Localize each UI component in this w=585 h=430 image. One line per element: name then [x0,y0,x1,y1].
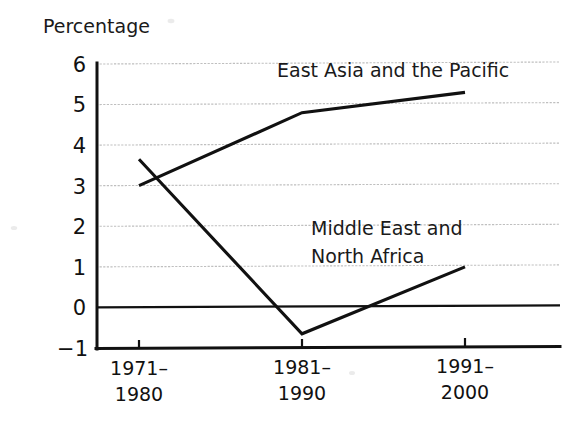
y-tick-2: 2 [73,215,86,239]
y-tick-5: 5 [73,93,86,117]
x-tick-2-line2: 1990 [278,382,326,404]
y-tick-4: 4 [73,134,86,158]
y-tick-1: 1 [73,256,86,280]
y-axis-tick-labels: 6 5 4 3 2 1 0 −1 [57,53,88,361]
y-tick-0: 0 [73,296,86,320]
x-tick-1-line1: 1971– [110,357,168,379]
series-label-middle-east-line2: North Africa [311,245,424,267]
x-tick-3-line1: 1991– [436,355,494,377]
zero-baseline [96,305,560,307]
x-tick-1-line2: 1980 [115,383,163,405]
gridline-5 [96,103,560,105]
x-axis-line [96,347,560,349]
y-tick-minus-1: −1 [57,337,88,361]
chart-container: Percentage 6 5 4 3 2 1 0 −1 [0,0,585,430]
scan-artifact [349,371,355,375]
y-tick-6: 6 [73,53,86,77]
series-label-middle-east-line1: Middle East and [311,217,463,239]
gridline-4 [96,143,560,145]
x-tick-3-line2: 2000 [441,381,489,403]
x-axis-tick-labels: 1971– 1980 1981– 1990 1991– 2000 [110,355,494,405]
y-tick-3: 3 [73,175,86,199]
y-axis-title: Percentage [43,15,150,37]
scan-artifact [168,19,175,23]
line-chart: Percentage 6 5 4 3 2 1 0 −1 [0,0,585,430]
series-label-east-asia: East Asia and the Pacific [277,59,509,81]
x-tick-2-line1: 1981– [273,356,331,378]
series-line-east-asia-and-the-pacific [139,92,465,185]
gridline-3 [96,184,560,186]
scan-artifact [11,226,17,230]
